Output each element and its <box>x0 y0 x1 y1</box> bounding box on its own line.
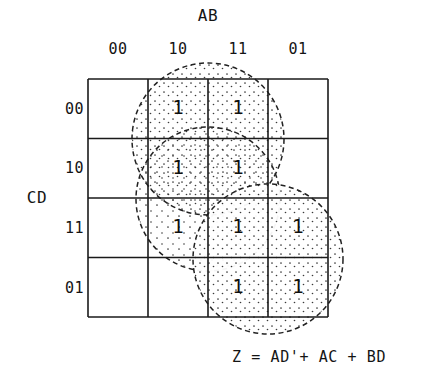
kmap-cell-r1c2: 1 <box>208 156 268 178</box>
kmap-cell-r3c2: 1 <box>208 275 268 297</box>
karnaugh-map-figure: AB CD 00 10 11 01 00 10 11 01 111111111 … <box>0 0 440 379</box>
kmap-cell-r2c1: 1 <box>148 215 208 237</box>
kmap-cell-r2c2: 1 <box>208 215 268 237</box>
kmap-grid-layer <box>0 0 440 379</box>
kmap-cell-r2c3: 1 <box>268 215 328 237</box>
kmap-cell-r3c3: 1 <box>268 275 328 297</box>
kmap-cell-r0c1: 1 <box>148 96 208 118</box>
kmap-cell-r0c2: 1 <box>208 96 268 118</box>
kmap-cell-r1c1: 1 <box>148 156 208 178</box>
